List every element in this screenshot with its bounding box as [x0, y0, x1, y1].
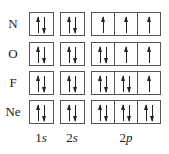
orbital-2p-box	[91, 71, 161, 95]
orbital-cell	[137, 13, 160, 35]
orbital-cell	[92, 72, 114, 94]
orbital-2p-box	[91, 42, 161, 66]
spin-down-arrow-icon	[106, 105, 107, 121]
spin-up-arrow-icon	[123, 76, 124, 92]
orbital-cell	[114, 101, 137, 123]
orbital-cell	[30, 13, 53, 35]
spin-up-arrow-icon	[100, 76, 101, 92]
element-label-o: O	[0, 42, 26, 66]
spin-up-arrow-icon	[38, 76, 39, 92]
spin-up-arrow-icon	[38, 105, 39, 121]
element-label-f: F	[0, 71, 26, 95]
spin-down-arrow-icon	[44, 76, 45, 92]
label-2s: 2s	[60, 130, 84, 146]
orbital-cell	[30, 43, 53, 65]
spin-down-arrow-icon	[75, 105, 76, 121]
spin-down-arrow-icon	[75, 17, 76, 33]
spin-up-arrow-icon	[149, 47, 150, 63]
orbital-2s-box	[60, 71, 85, 95]
orbital-cell	[137, 72, 160, 94]
orbital-cell	[92, 13, 114, 35]
spin-down-arrow-icon	[106, 47, 107, 63]
spin-up-arrow-icon	[69, 47, 70, 63]
spin-down-arrow-icon	[75, 76, 76, 92]
element-label-ne: Ne	[0, 100, 26, 124]
spin-up-arrow-icon	[69, 17, 70, 33]
orbital-cell	[137, 101, 160, 123]
label-1s: 1s	[29, 130, 53, 146]
spin-down-arrow-icon	[44, 105, 45, 121]
orbital-cell	[30, 72, 53, 94]
spin-down-arrow-icon	[75, 47, 76, 63]
orbital-cell	[61, 72, 84, 94]
spin-up-arrow-icon	[69, 105, 70, 121]
spin-down-arrow-icon	[152, 105, 153, 121]
element-label-n: N	[0, 12, 26, 36]
orbital-cell	[61, 101, 84, 123]
orbital-1s-box	[29, 100, 54, 124]
spin-down-arrow-icon	[129, 105, 130, 121]
spin-up-arrow-icon	[38, 47, 39, 63]
orbital-2s-box	[60, 42, 85, 66]
spin-up-arrow-icon	[146, 105, 147, 121]
label-2p: 2p	[91, 130, 161, 146]
orbital-1s-box	[29, 71, 54, 95]
orbital-2p-box	[91, 100, 161, 124]
orbital-1s-box	[29, 12, 54, 36]
spin-down-arrow-icon	[44, 17, 45, 33]
spin-up-arrow-icon	[126, 17, 127, 33]
orbital-cell	[61, 13, 84, 35]
orbital-cell	[114, 13, 137, 35]
orbital-cell	[61, 43, 84, 65]
orbital-2s-box	[60, 100, 85, 124]
orbital-cell	[92, 101, 114, 123]
spin-up-arrow-icon	[38, 17, 39, 33]
orbital-1s-box	[29, 42, 54, 66]
spin-down-arrow-icon	[106, 76, 107, 92]
spin-up-arrow-icon	[126, 47, 127, 63]
orbital-2p-box	[91, 12, 161, 36]
spin-down-arrow-icon	[44, 47, 45, 63]
orbital-2s-box	[60, 12, 85, 36]
orbital-cell	[114, 43, 137, 65]
spin-up-arrow-icon	[149, 17, 150, 33]
spin-up-arrow-icon	[69, 76, 70, 92]
spin-up-arrow-icon	[149, 76, 150, 92]
spin-down-arrow-icon	[129, 76, 130, 92]
spin-up-arrow-icon	[103, 17, 104, 33]
spin-up-arrow-icon	[100, 105, 101, 121]
orbital-cell	[137, 43, 160, 65]
orbital-cell	[114, 72, 137, 94]
spin-up-arrow-icon	[100, 47, 101, 63]
orbital-cell	[30, 101, 53, 123]
spin-up-arrow-icon	[123, 105, 124, 121]
orbital-cell	[92, 43, 114, 65]
